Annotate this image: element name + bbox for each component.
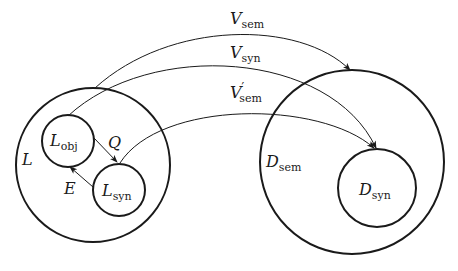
label-D-sem: Dsem (265, 152, 302, 174)
label-D-syn: Dsyn (358, 180, 391, 202)
label-V-sem-prime: V′sem (230, 81, 262, 105)
label-Q: Q (108, 133, 121, 152)
label-L: L (21, 150, 33, 169)
label-E: E (63, 179, 76, 198)
set-D-syn-circle (338, 149, 416, 227)
diagram-canvas: L Lobj Lsyn Q E Dsem Dsyn Vsem Vsyn V′se… (0, 0, 458, 271)
label-V-syn: Vsyn (230, 43, 261, 65)
label-L-syn: Lsyn (101, 181, 132, 203)
label-V-sem: Vsem (230, 9, 265, 31)
arrow-V-sem-prime (120, 114, 374, 163)
set-L-circle (16, 88, 170, 242)
label-L-obj: Lobj (49, 131, 78, 153)
